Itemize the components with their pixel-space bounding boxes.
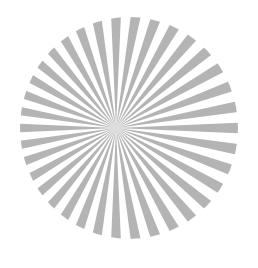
siemens-star-canvas [0, 0, 258, 268]
